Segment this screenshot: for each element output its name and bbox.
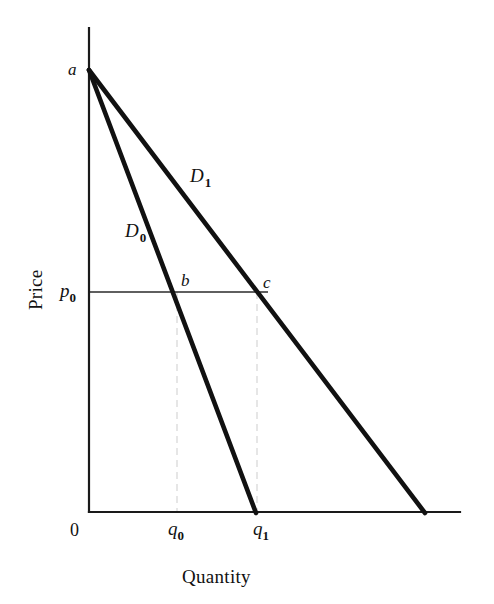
- point-label-a: a: [68, 61, 77, 78]
- curve-label-d1-letter: D: [190, 165, 204, 186]
- y-axis-title: Price: [26, 269, 45, 310]
- curve-label-d0-subscript: 0: [140, 230, 147, 245]
- point-label-c: c: [263, 274, 271, 291]
- curve-label-d0-letter: D: [125, 220, 139, 241]
- price-axis-value-p0-letter: p: [60, 280, 70, 301]
- price-axis-value-p0: p0: [60, 281, 76, 304]
- point-label-b: b: [181, 272, 190, 289]
- quantity-axis-value-q0-letter: q: [168, 518, 178, 539]
- demand-curve-figure: a D1 D0 b c p0 0 q0 q1 Price Quantity: [0, 0, 494, 604]
- quantity-axis-value-q1-letter: q: [253, 518, 263, 539]
- origin-label: 0: [70, 521, 79, 539]
- quantity-axis-value-q1-subscript: 1: [263, 528, 270, 543]
- curve-label-d0: D0: [125, 221, 146, 244]
- quantity-axis-value-q1: q1: [253, 519, 269, 542]
- x-axis-title: Quantity: [182, 567, 251, 586]
- curve-label-d1: D1: [190, 166, 211, 189]
- quantity-axis-value-q0: q0: [168, 519, 184, 542]
- curve-label-d1-subscript: 1: [205, 175, 212, 190]
- price-axis-value-p0-subscript: 0: [70, 290, 77, 305]
- quantity-axis-value-q0-subscript: 0: [178, 528, 185, 543]
